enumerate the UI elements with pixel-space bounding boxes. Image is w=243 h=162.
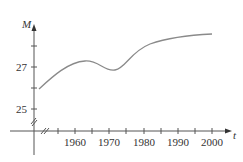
- x-axis-label: t: [233, 129, 237, 141]
- chart: M t 27 25 1960 1970 1980 1990 2000: [0, 0, 243, 162]
- x-tick-label: 1980: [133, 136, 156, 148]
- x-axis-arrow-icon: [225, 129, 232, 134]
- data-curve: [39, 34, 212, 89]
- y-axis-arrow-icon: [32, 24, 37, 31]
- x-tick-label: 1970: [98, 136, 121, 148]
- y-tick-label: 27: [16, 61, 28, 73]
- x-tick-label: 1990: [167, 136, 190, 148]
- x-tick-label: 1960: [64, 136, 87, 148]
- y-tick-label: 25: [16, 103, 28, 115]
- y-axis-label: M: [21, 18, 32, 30]
- x-tick-label: 2000: [201, 136, 224, 148]
